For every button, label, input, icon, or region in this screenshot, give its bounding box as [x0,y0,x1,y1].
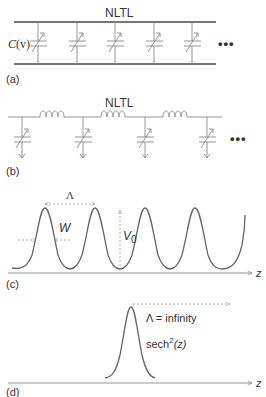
varactor-ground-icon [14,117,31,158]
panel-c: z Λ W V0 (c) [6,189,262,290]
panel-a: NLTL [6,6,235,85]
axis-label-z-c: z [255,267,262,279]
varactor-icon [30,22,47,64]
varactor-ground-icon [137,117,154,158]
varactor-icon [146,22,163,64]
panel-d-label: (d) [6,386,19,397]
panel-a-label: (a) [6,73,19,85]
width-label: W [59,221,72,235]
sech-label: sech2(z) [146,336,187,350]
varactor-icon [107,22,124,64]
capacitance-label: C(v) [8,37,30,51]
varactor-array [30,22,201,64]
ladder-circuit [8,111,222,158]
ellipsis-b: ••• [230,131,247,146]
panel-b: NLTL [6,96,247,177]
inductor-icon [101,111,130,117]
varactor-ground-icon [75,117,92,158]
inductor-icon [163,111,191,117]
amplitude-label: V0 [123,229,137,245]
panel-a-title: NLTL [105,6,134,20]
varactor-icon [69,22,86,64]
panel-c-label: (c) [6,278,19,290]
panel-b-title: NLTL [105,96,134,110]
panel-b-label: (b) [6,165,19,177]
inductor-icon [40,111,68,117]
lambda-infinity-label: Λ = infinity [146,312,197,324]
lambda-label: Λ [66,189,74,201]
axis-label-z-d: z [255,377,262,389]
varactor-ground-icon [199,117,216,158]
panel-d: Λ = infinity sech2(z) z (d) [6,304,262,397]
ellipsis-a: ••• [218,36,235,51]
varactor-icon [184,22,201,64]
nltl-diagram: NLTL [0,0,266,397]
